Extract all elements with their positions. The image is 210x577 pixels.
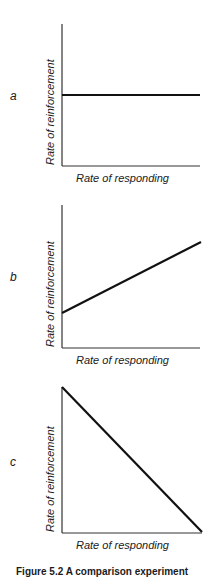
panel-a-letter: a [10,89,17,103]
panel-c-y-axis-label: Rate of reinforcement [44,426,56,532]
panel-c-plot [62,387,202,533]
data-line [62,387,202,532]
panel-a-y-axis-label: Rate of reinforcement [44,59,56,165]
figure-caption: Figure 5.2 A comparison experiment [16,566,188,577]
panel-a-x-axis-label: Rate of responding [76,172,169,184]
panel-b-letter: b [10,270,17,284]
panel-c-x-axis-label: Rate of responding [76,539,169,551]
panel-c-letter: c [10,455,16,469]
data-line [62,242,201,313]
panel-b-x-axis-label: Rate of responding [76,354,169,366]
panel-b-plot [62,205,201,348]
panel-b-y-axis-label: Rate of reinforcement [44,241,56,347]
panel-a-plot [62,24,200,166]
